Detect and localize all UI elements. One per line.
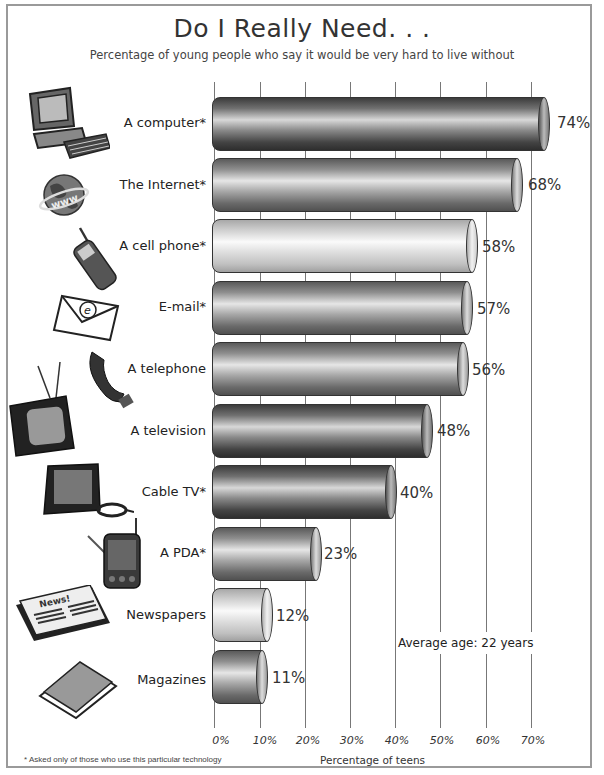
category-label: The Internet* [120, 177, 206, 192]
bar-cap [421, 404, 433, 458]
computer-icon [24, 86, 110, 162]
category-label: A cell phone* [119, 238, 206, 253]
value-label: 58% [482, 238, 515, 256]
envelope-email-icon: e [52, 292, 120, 344]
bar-computer[interactable] [212, 97, 544, 151]
value-label: 57% [477, 300, 510, 318]
value-label: 56% [472, 361, 505, 379]
value-label: 74% [557, 114, 590, 132]
average-age-annotation: Average age: 22 years [396, 632, 535, 654]
category-label: A PDA* [160, 545, 206, 560]
svg-text:e: e [84, 304, 91, 317]
bar-cap [466, 219, 478, 273]
category-label: E-mail* [159, 299, 206, 314]
pda-icon [86, 516, 144, 590]
category-label: A computer* [124, 115, 206, 130]
bar-cap [511, 158, 523, 212]
bar-cap [261, 588, 273, 642]
x-axis-label: Percentage of teens [320, 754, 425, 766]
value-label: 11% [272, 669, 305, 687]
bar-cable-tv[interactable] [212, 465, 391, 519]
x-tick-label: 0% [212, 734, 229, 747]
chart-subtitle: Percentage of young people who say it wo… [0, 48, 604, 62]
cell-phone-icon [70, 226, 128, 292]
x-tick-label: 70% [521, 734, 545, 747]
category-label: A telephone [128, 361, 206, 376]
bar-email[interactable] [212, 281, 467, 335]
bar-television[interactable] [212, 404, 427, 458]
globe-www-icon: www [38, 172, 90, 218]
bar-cap [538, 97, 550, 151]
bar-magazines[interactable] [212, 650, 262, 704]
bar-cap [385, 465, 397, 519]
bar-cap [461, 281, 473, 335]
magazine-icon [36, 660, 118, 720]
value-label: 48% [437, 422, 470, 440]
bar-cell-phone[interactable] [212, 219, 472, 273]
category-label: Cable TV* [142, 484, 206, 499]
value-label: 40% [400, 484, 433, 502]
category-label: Newspapers [126, 607, 206, 622]
x-tick-label: 20% [296, 734, 320, 747]
value-label: 23% [324, 545, 357, 563]
x-tick-label: 50% [430, 734, 454, 747]
x-tick-label: 60% [476, 734, 500, 747]
television-icon [8, 358, 76, 458]
footnote: * Asked only of those who use this parti… [24, 755, 221, 764]
x-tick-label: 40% [385, 734, 409, 747]
bar-cap [457, 342, 469, 396]
bar-telephone[interactable] [212, 342, 463, 396]
x-tick-label: 30% [340, 734, 364, 747]
value-label: 68% [528, 176, 561, 194]
value-label: 12% [276, 607, 309, 625]
bar-newspapers[interactable] [212, 588, 267, 642]
bar-internet[interactable] [212, 158, 517, 212]
category-label: A television [130, 423, 206, 438]
bar-cap [256, 650, 268, 704]
telephone-handset-icon [86, 348, 136, 410]
chart-title: Do I Really Need. . . [0, 14, 604, 43]
x-tick-label: 10% [253, 734, 277, 747]
newspaper-icon: News! [12, 585, 112, 643]
category-label: Magazines [137, 672, 206, 687]
cable-tv-icon [42, 462, 134, 520]
bar-cap [310, 527, 322, 581]
bar-pda[interactable] [212, 527, 316, 581]
